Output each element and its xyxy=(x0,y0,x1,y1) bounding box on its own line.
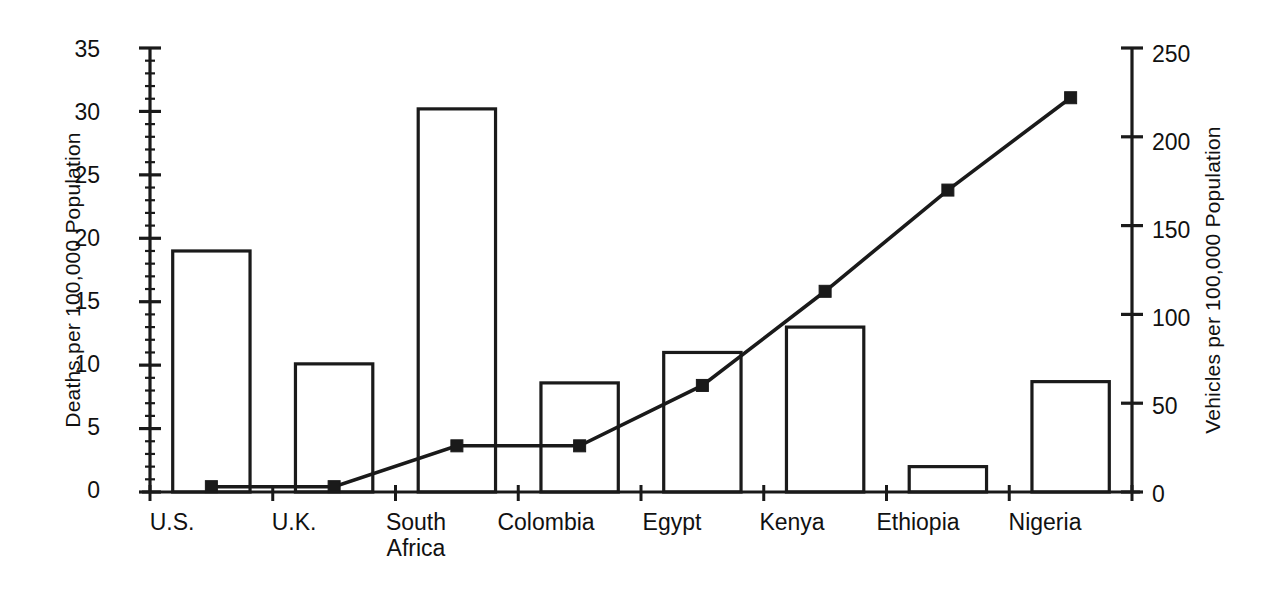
bar-1 xyxy=(295,364,372,492)
plot-area xyxy=(0,0,1281,605)
line-marker-6 xyxy=(942,184,954,196)
line-marker-2 xyxy=(451,440,463,452)
bar-5 xyxy=(786,327,863,492)
bar-series xyxy=(173,109,1110,492)
bar-0 xyxy=(173,251,250,492)
bar-7 xyxy=(1032,382,1109,492)
vehicles-line xyxy=(211,98,1070,487)
line-marker-3 xyxy=(574,440,586,452)
chart-canvas: Deaths per 100,000 Population Vehicles p… xyxy=(0,0,1281,605)
bar-3 xyxy=(541,383,618,492)
line-marker-0 xyxy=(205,481,217,493)
line-marker-4 xyxy=(696,379,708,391)
bar-4 xyxy=(664,352,741,492)
line-marker-1 xyxy=(328,481,340,493)
line-marker-5 xyxy=(819,285,831,297)
axis-lines xyxy=(142,48,1140,492)
bar-6 xyxy=(909,467,986,492)
line-marker-7 xyxy=(1065,92,1077,104)
line-series xyxy=(211,98,1070,487)
line-series-markers xyxy=(205,92,1076,493)
bar-2 xyxy=(418,109,495,492)
